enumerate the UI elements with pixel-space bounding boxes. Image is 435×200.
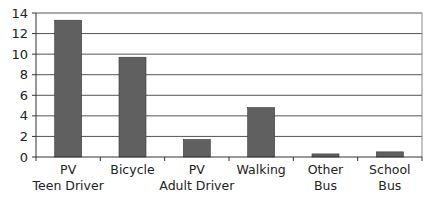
y-tick-label: 8 [20,67,28,82]
x-category-label: Adult Driver [159,178,235,193]
y-tick-label: 6 [20,88,28,103]
y-tick-label: 2 [20,129,28,144]
x-category-label: Other [308,162,344,177]
y-tick-label: 14 [11,6,28,21]
bar-pv-adult-driver [183,140,210,157]
bar-school-bus [376,152,403,157]
y-tick-label: 10 [11,47,28,62]
bar-chart: 02468101214PVTeen DriverBicyclePVAdult D… [0,0,435,200]
x-category-label: Bus [378,178,401,193]
x-category-label: PV [189,162,206,177]
x-category-label: Teen Driver [32,178,105,193]
x-category-label: School [369,162,411,177]
x-category-label: Bus [314,178,337,193]
bar-bicycle [119,57,146,157]
y-tick-label: 12 [11,26,28,41]
bar-walking [248,108,275,157]
bar-pv-teen-driver [55,20,82,157]
x-category-label: Bicycle [110,162,155,177]
x-category-label: Walking [237,162,286,177]
y-tick-label: 0 [20,150,28,165]
y-tick-label: 4 [20,108,28,123]
chart-canvas: 02468101214PVTeen DriverBicyclePVAdult D… [0,0,435,200]
x-category-label: PV [60,162,77,177]
